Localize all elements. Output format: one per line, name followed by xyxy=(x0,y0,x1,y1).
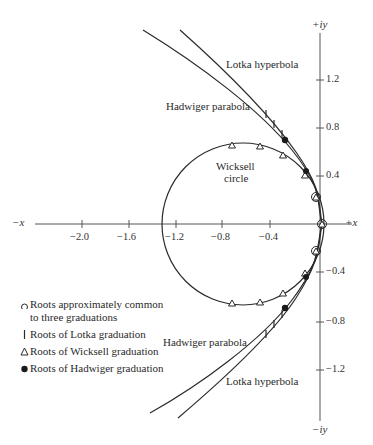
y-tick-label: −0.4 xyxy=(326,265,345,276)
legend-item-wicksell: Roots of Wicksell graduation xyxy=(18,345,164,358)
legend-item-hadwiger: Roots of Hadwiger graduation xyxy=(18,362,164,375)
y-tick-label: −1.2 xyxy=(326,363,345,374)
open-circle-icon xyxy=(18,298,30,309)
lotka-hyperbola-label-bottom: Lotka hyperbola xyxy=(226,375,298,387)
y-tick-label: 0.8 xyxy=(326,121,339,132)
y-tick-label: 1.2 xyxy=(326,73,339,84)
hadwiger-parabola-label-bottom: Hadwiger parabola xyxy=(163,336,247,348)
y-tick-label: −0.8 xyxy=(326,315,345,326)
y-tick-label: 0.4 xyxy=(326,169,339,180)
lotka-hyperbola-label-top: Lotka hyperbola xyxy=(226,58,298,70)
legend-text: to three graduations xyxy=(30,311,117,323)
legend-text: Roots of Hadwiger graduation xyxy=(30,362,164,375)
x-tick-label: −0.8 xyxy=(211,231,230,242)
legend: Roots approximately common to three grad… xyxy=(18,298,164,379)
legend-item-lotka: Roots of Lotka graduation xyxy=(18,328,164,341)
x-tick-label: −2.0 xyxy=(70,231,89,242)
legend-item-common: Roots approximately common to three grad… xyxy=(18,298,164,324)
legend-text: Roots approximately common xyxy=(30,298,163,310)
filled-circle-icon xyxy=(18,362,30,373)
open-triangle-icon xyxy=(18,345,30,356)
vertical-bar-icon xyxy=(18,328,30,340)
legend-text: Roots of Lotka graduation xyxy=(30,328,146,341)
hadwiger-parabola-label-top: Hadwiger parabola xyxy=(166,100,250,112)
x-neg-axis-label: −x xyxy=(12,216,24,228)
x-pos-axis-label: +x xyxy=(345,216,357,228)
wicksell-circle-label-2: circle xyxy=(224,172,248,184)
x-tick-label: −1.2 xyxy=(165,231,184,242)
y-neg-axis-label: −iy xyxy=(312,423,327,435)
legend-text: Roots of Wicksell graduation xyxy=(30,345,159,358)
x-tick-label: −1.6 xyxy=(117,231,136,242)
x-tick-label: −0.4 xyxy=(259,231,278,242)
lotka-hyperbola-lower xyxy=(178,224,322,418)
y-pos-axis-label: +iy xyxy=(312,18,327,30)
wicksell-circle-label-1: Wicksell xyxy=(216,160,255,172)
